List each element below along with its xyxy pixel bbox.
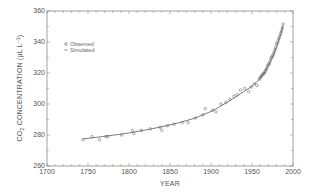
legend: Observed Simulated <box>65 41 95 53</box>
legend-simulated-label: Simulated <box>70 47 94 53</box>
observed-point <box>247 90 250 93</box>
y-tick-label: 320 <box>33 69 45 76</box>
observed-point <box>215 110 218 113</box>
y-tick-label: 360 <box>33 7 45 14</box>
observed-series-markers <box>82 23 285 141</box>
y-tick-label: 340 <box>33 38 45 45</box>
x-axis-label: YEAR <box>160 180 180 187</box>
y-axis-label: CO2 CONCENTRATION (μL L−1) <box>15 35 25 142</box>
y-tick-label: 300 <box>33 100 45 107</box>
y-tick-label: 280 <box>33 131 45 138</box>
x-tick-label: 1850 <box>162 168 178 175</box>
x-tick-label: 2000 <box>285 168 301 175</box>
y-tick-label: 260 <box>33 162 45 169</box>
observed-point <box>239 89 242 92</box>
observed-point <box>98 138 101 141</box>
observed-point <box>233 95 236 98</box>
x-tick-labels: 1700175018001850190019502000 <box>39 168 301 175</box>
observed-point <box>133 132 136 135</box>
observed-point <box>204 107 207 110</box>
y-tick-labels: 260280300320340360 <box>33 7 45 169</box>
x-tick-label: 1950 <box>244 168 260 175</box>
x-tick-label: 1800 <box>121 168 137 175</box>
observed-point <box>220 103 223 106</box>
observed-point <box>256 84 259 87</box>
plot-axes <box>47 11 293 166</box>
co2-concentration-chart: 1700175018001850190019502000 26028030032… <box>0 0 319 193</box>
plot-frame <box>47 11 293 166</box>
x-tick-label: 1900 <box>203 168 219 175</box>
observed-point <box>187 121 190 124</box>
x-tick-label: 1750 <box>80 168 96 175</box>
legend-observed-marker-icon <box>65 43 68 46</box>
observed-point <box>161 129 164 132</box>
observed-point <box>131 129 134 132</box>
observed-point <box>243 87 246 90</box>
